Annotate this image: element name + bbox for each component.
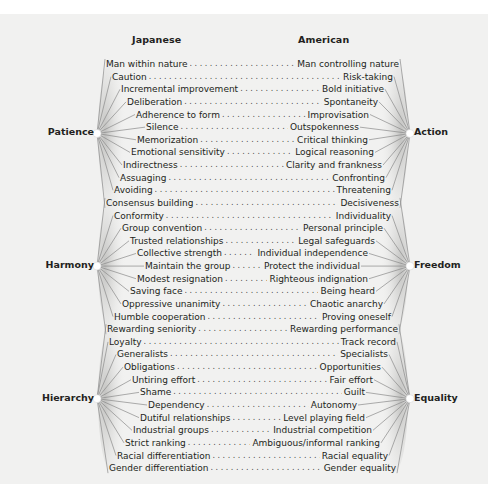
dot-leader [144, 336, 339, 348]
japanese-value: Collective strength [137, 247, 222, 259]
value-pair-row: SilenceOutspokenness [146, 121, 359, 133]
dot-leader [200, 134, 295, 146]
value-pair-row: LoyaltyTrack record [109, 336, 396, 348]
japanese-value: Untiring effort [132, 374, 195, 386]
value-pair-row: CautionRisk-taking [112, 71, 393, 83]
japanese-value: Conformity [114, 210, 164, 222]
concept-node-harmony: Harmony [46, 259, 94, 270]
value-pair-row: GeneralistsSpecialists [117, 348, 388, 360]
american-value: Decisiveness [340, 197, 399, 209]
value-pair-row: Saving faceBeing heard [130, 285, 375, 297]
value-pair-row: IndirectnessClarity and frankness [123, 159, 382, 171]
value-pair-row: Racial differentiationRacial equality [117, 450, 388, 462]
value-pair-row: Incremental improvementBold initiative [121, 83, 384, 95]
value-pair-row: AvoidingThreatening [114, 184, 391, 196]
value-pair-row: Dutiful relationshipsLevel playing field [140, 412, 365, 424]
japanese-value: Loyalty [109, 336, 142, 348]
american-value: Chaotic anarchy [310, 298, 383, 310]
japanese-value: Saving face [130, 285, 183, 297]
american-value: Autonomy [311, 399, 357, 411]
dot-leader [227, 146, 293, 158]
japanese-value: Assuaging [120, 172, 166, 184]
value-pair-row: Modest resignationRighteous indignation [137, 273, 368, 285]
american-value: Level playing field [283, 412, 365, 424]
dot-leader [184, 96, 322, 108]
concept-node-equality: Equality [414, 392, 458, 403]
american-value: Rewarding performance [290, 323, 398, 335]
japanese-value: Caution [112, 71, 147, 83]
japanese-value: Gender differentiation [109, 462, 209, 474]
american-value: Guilt [344, 386, 365, 398]
value-pair-row: DeliberationSpontaneity [127, 96, 378, 108]
japanese-value: Generalists [117, 348, 168, 360]
value-pair-row: Humble cooperationProving oneself [114, 311, 391, 323]
japanese-value: Dutiful relationships [140, 412, 231, 424]
value-pair-row: AssuagingConfronting [120, 172, 385, 184]
value-pair-row: Group conventionPersonal principle [122, 222, 383, 234]
japanese-value: Incremental improvement [121, 83, 238, 95]
american-value: Man controlling nature [297, 58, 399, 70]
dot-leader [222, 298, 308, 310]
american-value: Individuality [336, 210, 391, 222]
japanese-value: Silence [146, 121, 178, 133]
japanese-value: Trusted relationships [130, 235, 224, 247]
japanese-value: Oppressive unanimity [122, 298, 220, 310]
american-value: Legal safeguards [298, 235, 375, 247]
american-value: Gender equality [324, 462, 396, 474]
american-value: Proving oneself [322, 311, 391, 323]
value-pair-row: Consensus buildingDecisiveness [106, 197, 399, 209]
american-value: Outspokenness [290, 121, 359, 133]
dot-leader [224, 247, 256, 259]
dot-leader [208, 311, 320, 323]
american-value: Track record [341, 336, 396, 348]
dot-leader [197, 374, 327, 386]
american-value: Protect the individual [264, 260, 360, 272]
dot-leader [212, 450, 319, 462]
concept-node-action: Action [414, 126, 448, 137]
value-pair-row: Collective strengthIndividual independen… [137, 247, 368, 259]
dot-leader [222, 109, 306, 121]
american-value: Fair effort [330, 374, 373, 386]
american-value: Threatening [337, 184, 391, 196]
value-pair-row: Adherence to formImprovisation [136, 109, 369, 121]
concept-node-patience: Patience [48, 126, 94, 137]
dot-leader [198, 323, 288, 335]
dot-leader [166, 210, 334, 222]
japanese-value: Avoiding [114, 184, 153, 196]
american-value: Risk-taking [343, 71, 393, 83]
american-value: Spontaneity [324, 96, 378, 108]
japanese-value: Adherence to form [136, 109, 220, 121]
american-value: Confronting [332, 172, 385, 184]
japanese-value: Modest resignation [137, 273, 223, 285]
dot-leader [195, 197, 338, 209]
american-value: Opportunities [320, 361, 381, 373]
japanese-value: Memorization [137, 134, 198, 146]
dot-leader [207, 399, 309, 411]
american-value: Ambiguous/informal ranking [252, 437, 380, 449]
dot-leader [211, 424, 271, 436]
value-pair-row: Untiring effortFair effort [132, 374, 373, 386]
japanese-value: Shame [140, 386, 171, 398]
dot-leader [188, 437, 251, 449]
dot-leader [233, 412, 282, 424]
american-value: Industrial competition [273, 424, 372, 436]
american-value: Clarity and frankness [286, 159, 382, 171]
dot-leader [232, 260, 262, 272]
dot-leader [225, 273, 267, 285]
american-value: Critical thinking [297, 134, 368, 146]
dot-leader [155, 184, 335, 196]
column-header-american: American [298, 34, 349, 45]
american-value: Improvisation [308, 109, 369, 121]
japanese-value: Strict ranking [125, 437, 186, 449]
dot-leader [177, 361, 318, 373]
japanese-value: Humble cooperation [114, 311, 206, 323]
american-value: Righteous indignation [269, 273, 368, 285]
japanese-value: Indirectness [123, 159, 178, 171]
value-pair-row: Man within natureMan controlling nature [106, 58, 399, 70]
dot-leader [180, 121, 288, 133]
column-header-japanese: Japanese [132, 34, 181, 45]
american-value: Bold initiative [322, 83, 384, 95]
value-pair-row: ConformityIndividuality [114, 210, 391, 222]
american-value: Logical reasoning [295, 146, 374, 158]
value-pair-row: Strict rankingAmbiguous/informal ranking [125, 437, 380, 449]
